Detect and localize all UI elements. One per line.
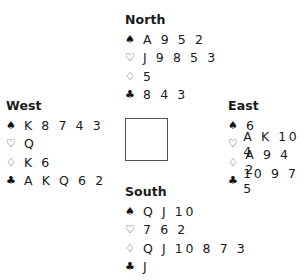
east-label: East [228,98,305,113]
north-clubs: 8 4 3 [143,87,188,102]
west-diamonds-row: ♢ K 6 [6,153,106,172]
diamond-icon: ♢ [125,242,143,255]
north-label: North [125,12,218,27]
heart-icon: ♡ [125,223,143,236]
south-clubs-row: ♣ J [125,258,247,277]
spade-icon: ♠ [125,33,143,46]
west-clubs: A K Q 6 2 [24,173,106,188]
spade-icon: ♠ [6,119,24,132]
west-diamonds: K 6 [24,155,52,170]
west-label: West [6,98,106,113]
south-spades: Q J 10 [143,204,196,219]
east-hand: East ♠ 6 ♡ A K 10 4 ♢ A 9 4 2 ♣ 10 9 7 5 [228,98,305,190]
club-icon: ♣ [6,174,24,187]
diamond-icon: ♢ [6,156,24,169]
south-hearts-row: ♡ 7 6 2 [125,221,247,240]
west-hearts: Q [24,136,36,151]
north-hearts-row: ♡ J 9 8 5 3 [125,49,218,68]
heart-icon: ♡ [6,137,24,150]
west-hearts-row: ♡ Q [6,135,106,154]
north-clubs-row: ♣ 8 4 3 [125,86,218,105]
south-clubs: J [143,259,149,274]
south-spades-row: ♠ Q J 10 [125,202,247,221]
heart-icon: ♡ [228,137,243,150]
west-clubs-row: ♣ A K Q 6 2 [6,172,106,191]
club-icon: ♣ [125,88,143,101]
club-icon: ♣ [125,260,143,273]
west-spades: K 8 7 4 3 [24,118,103,133]
south-diamonds-row: ♢ Q J 10 8 7 3 [125,239,247,258]
diamond-icon: ♢ [125,70,143,83]
north-hand: North ♠ A 9 5 2 ♡ J 9 8 5 3 ♢ 5 ♣ 8 4 3 [125,12,218,104]
north-hearts: J 9 8 5 3 [143,50,218,65]
spade-icon: ♠ [125,205,143,218]
west-hand: West ♠ K 8 7 4 3 ♡ Q ♢ K 6 ♣ A K Q 6 2 [6,98,106,190]
south-label: South [125,184,247,199]
north-spades: A 9 5 2 [143,32,206,47]
north-diamonds: 5 [143,69,154,84]
west-spades-row: ♠ K 8 7 4 3 [6,116,106,135]
south-diamonds: Q J 10 8 7 3 [143,241,247,256]
south-hearts: 7 6 2 [143,222,188,237]
south-hand: South ♠ Q J 10 ♡ 7 6 2 ♢ Q J 10 8 7 3 ♣ … [125,184,247,276]
heart-icon: ♡ [125,51,143,64]
north-spades-row: ♠ A 9 5 2 [125,30,218,49]
east-clubs: 10 9 7 5 [243,166,305,196]
north-diamonds-row: ♢ 5 [125,67,218,86]
table-square [125,118,168,161]
